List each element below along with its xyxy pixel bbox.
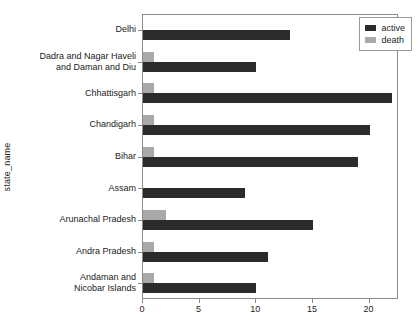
y-tick-label-line: Nicobar Islands: [4, 283, 136, 294]
y-tick-label-line: Arunachal Pradesh: [4, 214, 136, 225]
plot-area: [142, 14, 398, 299]
bar-active: [143, 93, 392, 103]
legend-item-death[interactable]: death: [365, 34, 405, 46]
x-tick-mark: [255, 299, 256, 303]
bar-active: [143, 157, 358, 167]
x-tick-label: 20: [357, 304, 381, 314]
bar-active: [143, 125, 370, 135]
legend-swatch-death-icon: [365, 37, 376, 43]
x-tick-label: 10: [243, 304, 267, 314]
bar-death: [143, 83, 154, 93]
chart-legend[interactable]: active death: [359, 17, 412, 51]
y-tick-label-line: and Daman and Diu: [4, 62, 136, 73]
y-tick-label: Assam: [4, 183, 136, 194]
bar-series-container: [143, 15, 397, 298]
y-tick-label-line: Dadra and Nagar Haveli: [4, 51, 136, 62]
x-tick-mark: [142, 299, 143, 303]
bar-death: [143, 52, 154, 62]
y-tick-label-line: Delhi: [4, 24, 136, 35]
bar-chart-figure: state_name DelhiDadra and Nagar Havelian…: [0, 0, 420, 334]
legend-item-active[interactable]: active: [365, 22, 405, 34]
y-tick-label: Andra Pradesh: [4, 246, 136, 257]
y-tick-label: Bihar: [4, 151, 136, 162]
x-tick-mark: [199, 299, 200, 303]
bar-active: [143, 188, 245, 198]
x-tick-label: 5: [187, 304, 211, 314]
bar-death: [143, 242, 154, 252]
y-tick-label: Arunachal Pradesh: [4, 214, 136, 225]
bar-death: [143, 210, 166, 220]
y-tick-label: Delhi: [4, 24, 136, 35]
y-tick-label-line: Andaman and: [4, 272, 136, 283]
bar-active: [143, 220, 313, 230]
bar-active: [143, 62, 256, 72]
y-tick-label-line: Assam: [4, 183, 136, 194]
bar-death: [143, 147, 154, 157]
y-tick-label-line: Chandigarh: [4, 119, 136, 130]
bar-death: [143, 115, 154, 125]
bar-death: [143, 273, 154, 283]
legend-label-death: death: [381, 35, 404, 45]
x-tick-mark: [369, 299, 370, 303]
x-tick-label: 15: [300, 304, 324, 314]
bar-active: [143, 283, 256, 293]
bar-active: [143, 30, 290, 40]
x-tick-label: 0: [130, 304, 154, 314]
y-tick-label: Chhattisgarh: [4, 88, 136, 99]
y-tick-label-line: Andra Pradesh: [4, 246, 136, 257]
y-tick-label: Chandigarh: [4, 119, 136, 130]
y-tick-label-line: Chhattisgarh: [4, 88, 136, 99]
y-tick-label-line: Bihar: [4, 151, 136, 162]
legend-label-active: active: [381, 23, 405, 33]
y-tick-label: Dadra and Nagar Haveliand Daman and Diu: [4, 51, 136, 73]
bar-active: [143, 252, 268, 262]
legend-swatch-active-icon: [365, 25, 376, 31]
x-tick-mark: [312, 299, 313, 303]
y-tick-label: Andaman andNicobar Islands: [4, 272, 136, 294]
